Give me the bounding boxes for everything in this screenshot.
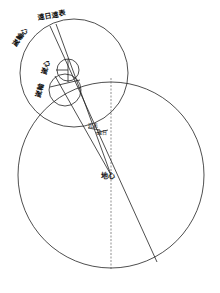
diagonal-line-main bbox=[50, 26, 157, 262]
label-small-lower-left: 嵗輪 bbox=[33, 82, 46, 100]
diagonal-line-secondary bbox=[56, 24, 111, 175]
label-outer-top-left: 嵗輪心 bbox=[10, 26, 30, 49]
label-earth-center: 地心 bbox=[101, 171, 115, 180]
label-small-upper: 嵗心 bbox=[39, 60, 52, 77]
label-mid-lower: 遠日 bbox=[97, 129, 107, 136]
small-circle-chord bbox=[50, 80, 80, 87]
astronomical-diagram: 嵗輪心 遠日遠表 嵗心 嵗輪 近表 遠日 地心 bbox=[0, 0, 220, 293]
label-mid-upper: 近表 bbox=[88, 122, 98, 129]
diagonal-line-inner bbox=[55, 76, 111, 175]
